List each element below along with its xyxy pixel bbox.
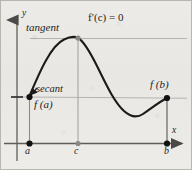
f-of-b-label: f (b) [150,79,169,90]
x-axis-label: x [172,126,176,136]
point-f-of-a [26,94,32,100]
x-tick-label-a: a [25,146,30,156]
tangent-label: tangent [26,22,59,33]
f-of-a-label: f (a) [34,99,53,110]
figure-canvas: y x tangent secant f (a) f (b) f′(c) = 0… [0,0,192,170]
x-tick-label-b: b [164,146,169,156]
point-f-of-b [164,95,170,101]
secant-label: secant [36,84,63,95]
y-axis-label: y [22,9,26,19]
x-tick-label-c: c [74,146,78,156]
derivative-at-c-label: f′(c) = 0 [88,12,123,23]
point-maximum-c [75,35,80,40]
